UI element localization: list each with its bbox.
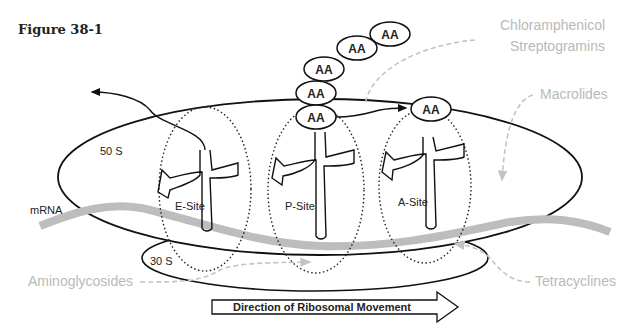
chloramphenicol-label: Chloramphenicol	[500, 17, 605, 33]
amino-acid-label: AA	[315, 63, 333, 77]
e-site-label: E-Site	[175, 200, 205, 212]
ribosome-diagram: AA AA AA AA AA AA 50 S mRNA 30 S E-Site …	[0, 0, 635, 328]
a-site-label: A-Site	[398, 196, 428, 208]
large-subunit-label: 50 S	[100, 145, 123, 157]
p-site-label: P-Site	[285, 200, 315, 212]
amino-acid-label: AA	[422, 103, 440, 117]
chloramphenicol-arrow	[365, 40, 475, 105]
mrna-label: mRNA	[30, 204, 63, 216]
direction-arrow-label: Direction of Ribosomal Movement	[233, 301, 411, 313]
amino-acid-label: AA	[381, 28, 399, 42]
aminoglycosides-label: Aminoglycosides	[28, 273, 133, 289]
macrolides-label: Macrolides	[540, 86, 608, 102]
streptogramins-label: Streptogramins	[510, 38, 605, 54]
amino-acid-label: AA	[307, 111, 325, 125]
tetracyclines-label: Tetracyclines	[535, 273, 616, 289]
amino-acid-label: AA	[348, 42, 366, 56]
amino-acid-label: AA	[307, 87, 325, 101]
small-subunit-label: 30 S	[150, 255, 173, 267]
